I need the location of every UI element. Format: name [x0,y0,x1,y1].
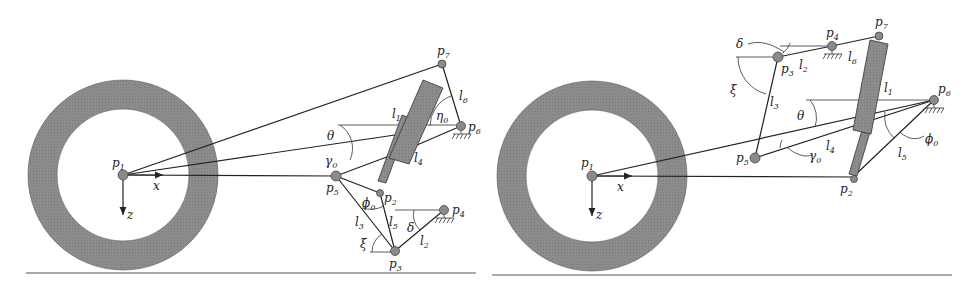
label-l3: l3 [355,215,364,231]
label-phi0: ϕ0 [362,196,375,212]
joint-p1 [587,171,597,181]
suspension-diagram: p1 x z p5 p2 p3 p4 p6 p7 l1 l6 l4 l3 l5 … [0,0,978,293]
joint-p6 [930,96,939,105]
joint-p5 [750,153,760,163]
label-l1: l1 [392,107,401,123]
label-p7: p7 [437,44,451,60]
label-l5: l5 [389,215,398,231]
label-p1: p1 [112,156,125,172]
label-theta: θ [327,129,335,143]
label-xi: ξ [360,237,368,251]
label-xi: ξ [730,83,738,97]
label-gamma0: γ0 [809,149,821,165]
label-l6: l6 [459,89,468,105]
label-theta: θ [797,109,805,123]
joint-p3 [773,52,783,62]
label-phi0: ϕ0 [925,132,938,148]
label-gamma0: γ0 [325,154,337,170]
label-l2: l2 [799,58,808,74]
label-p4: p4 [826,26,839,42]
label-x-axis: x [153,179,160,193]
shock-absorber [378,80,443,183]
label-x-axis: x [617,180,624,194]
label-p7: p7 [875,15,889,31]
phi0-leader [900,132,924,139]
label-z-axis: z [595,208,603,222]
label-l6: l6 [848,50,857,66]
label-p2: p2 [384,191,397,207]
joint-p6 [457,122,466,131]
joint-p7 [438,60,446,68]
joint-p5 [331,171,341,181]
label-p5: p5 [326,181,339,197]
label-eta0: η0 [436,109,448,125]
link-l2 [778,46,832,57]
label-delta: δ [736,37,743,51]
joint-p2 [851,176,858,183]
label-l4: l4 [414,151,423,167]
joint-p2 [377,190,384,197]
label-l5: l5 [898,146,907,162]
label-l2: l2 [420,234,429,250]
right-figure: p1 x z p5 p2 p3 p4 p7 p6 l1 l2 l3 l4 l5 … [492,15,952,275]
joint-p4 [828,42,837,51]
label-l3: l3 [770,95,779,111]
label-p6: p6 [468,120,481,136]
label-l1: l1 [884,81,893,97]
joint-p3 [391,247,400,256]
label-delta: δ [407,221,414,235]
joint-p7 [875,32,883,40]
label-p2: p2 [840,182,853,198]
label-p1: p1 [581,156,594,172]
label-l4: l4 [826,139,835,155]
delta-leader [748,42,784,52]
label-p4: p4 [452,203,465,219]
label-p6: p6 [938,82,951,98]
label-p3: p3 [781,62,794,78]
label-p3: p3 [389,257,402,273]
joint-p4 [440,206,449,215]
link-l4 [755,100,934,158]
left-figure: p1 x z p5 p2 p3 p4 p6 p7 l1 l6 l4 l3 l5 … [26,44,481,273]
label-z-axis: z [126,208,134,222]
label-p5: p5 [736,151,749,167]
